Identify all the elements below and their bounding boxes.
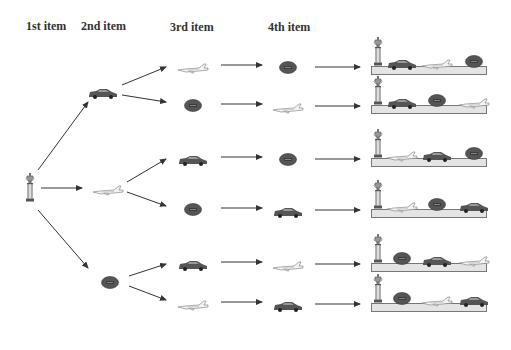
- shelf-car-icon: [422, 253, 452, 271]
- shelf-football-icon: [393, 251, 411, 269]
- third-plane-icon: [177, 297, 209, 315]
- shelf-trophy-icon: [373, 179, 383, 213]
- arrow: [122, 95, 166, 102]
- shelf-trophy-icon: [373, 128, 383, 162]
- level2-plane-icon: [92, 182, 124, 200]
- arrow: [38, 210, 88, 268]
- third-football-icon: [184, 202, 202, 220]
- shelf-car-icon: [459, 199, 489, 217]
- shelf-football-icon: [465, 54, 483, 72]
- shelf-plane-icon: [386, 199, 418, 217]
- arrow: [127, 159, 166, 182]
- shelf-football-icon: [465, 146, 483, 164]
- shelf-trophy-icon: [373, 75, 383, 109]
- shelf-plane-icon: [458, 95, 490, 113]
- shelf-trophy-icon: [373, 273, 383, 307]
- shelf-plane-icon: [421, 293, 453, 311]
- fourth-car-icon: [273, 298, 303, 316]
- shelf-football-icon: [393, 291, 411, 309]
- level2-football-icon: [101, 275, 119, 293]
- shelf-plane-icon: [458, 253, 490, 271]
- shelf-car-icon: [422, 148, 452, 166]
- fourth-football-icon: [279, 152, 297, 170]
- third-plane-icon: [177, 60, 209, 78]
- shelf-football-icon: [428, 197, 446, 215]
- fourth-car-icon: [273, 204, 303, 222]
- third-football-icon: [184, 98, 202, 116]
- third-car-icon: [178, 257, 208, 275]
- arrow: [122, 67, 166, 85]
- shelf-plane-icon: [386, 148, 418, 166]
- shelf-car-icon: [387, 95, 417, 113]
- permutation-tree-diagram: 1st item 2nd item 3rd item 4th item: [0, 0, 511, 350]
- shelf-car-icon: [459, 293, 489, 311]
- third-car-icon: [178, 152, 208, 170]
- fourth-plane-icon: [272, 258, 304, 276]
- root-trophy-icon: [25, 172, 35, 206]
- shelf-trophy-icon: [373, 233, 383, 267]
- shelf-football-icon: [428, 93, 446, 111]
- shelf-plane-icon: [421, 56, 453, 74]
- arrow: [129, 264, 166, 276]
- shelf-car-icon: [387, 56, 417, 74]
- arrow: [38, 102, 88, 170]
- level2-car-icon: [88, 85, 118, 103]
- fourth-football-icon: [279, 60, 297, 78]
- fourth-plane-icon: [272, 100, 304, 118]
- shelf-trophy-icon: [373, 36, 383, 70]
- arrow: [129, 286, 166, 300]
- arrow: [127, 192, 166, 206]
